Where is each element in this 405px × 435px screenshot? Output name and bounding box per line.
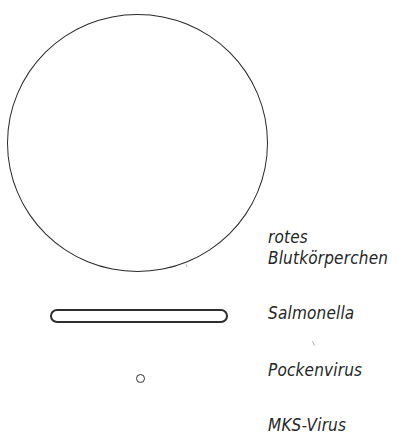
label-pox-virus: Pockenvirus [268,360,362,380]
label-fmd-virus: MKS-Virus [268,415,346,435]
salmonella-rod-shape [50,309,228,323]
scan-speck [312,341,315,346]
red-blood-cell-shape [7,14,268,272]
label-salmonella: Salmonella [268,303,354,323]
label-red-blood-cell-line-2: Blutkörperchen [268,248,388,269]
scan-speck [185,264,187,267]
label-red-blood-cell-line-1: rotes [268,227,388,248]
pox-virus-shape [136,374,145,383]
label-red-blood-cell: rotes Blutkörperchen [268,227,388,269]
